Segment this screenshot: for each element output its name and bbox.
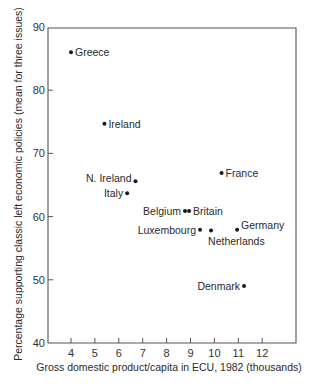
- y-axis-label: Percentage supporting classic left econo…: [12, 7, 24, 361]
- plot-frame: [48, 28, 296, 343]
- x-tick-label: 5: [92, 347, 98, 359]
- point-label: Britain: [193, 205, 223, 217]
- x-tick-label: 6: [116, 347, 122, 359]
- data-point: Germany: [235, 219, 285, 232]
- data-point: Ireland: [102, 118, 140, 130]
- point-marker: [209, 229, 213, 233]
- data-point: Italy: [104, 187, 129, 199]
- x-tick-label: 11: [233, 347, 244, 359]
- point-label: Italy: [104, 187, 124, 199]
- x-tick-label: 9: [187, 347, 193, 359]
- point-label: Luxembourg: [138, 224, 197, 236]
- y-axis-ticks: 405060708090: [33, 21, 53, 349]
- point-marker: [220, 171, 224, 175]
- point-marker: [187, 209, 191, 213]
- point-label: Netherlands: [208, 235, 265, 247]
- x-tick-label: 7: [140, 347, 146, 359]
- data-point: N. Ireland: [86, 172, 138, 184]
- x-axis-label: Gross domestic product/capita in ECU, 19…: [36, 361, 302, 373]
- y-tick-label: 90: [33, 21, 45, 33]
- x-axis-ticks: 456789101112: [68, 338, 268, 359]
- data-point: Britain: [187, 205, 223, 217]
- point-marker: [198, 228, 202, 232]
- data-points: GreeceIrelandN. IrelandItalyFranceBelgiu…: [69, 46, 285, 292]
- x-tick-label: 10: [208, 347, 220, 359]
- y-tick-label: 60: [33, 211, 45, 223]
- scatter-chart: 456789101112 405060708090 GreeceIrelandN…: [0, 0, 311, 391]
- point-label: Germany: [241, 219, 285, 231]
- point-marker: [183, 209, 187, 213]
- x-tick-label: 12: [256, 347, 268, 359]
- y-tick-label: 40: [33, 337, 45, 349]
- point-label: Greece: [75, 46, 110, 58]
- point-label: Belgium: [143, 205, 181, 217]
- point-marker: [235, 228, 239, 232]
- point-marker: [134, 179, 138, 183]
- point-marker: [69, 50, 73, 54]
- y-tick-label: 80: [33, 84, 45, 96]
- y-tick-label: 70: [33, 147, 45, 159]
- point-label: N. Ireland: [86, 172, 132, 184]
- data-point: Luxembourg: [138, 224, 202, 236]
- y-tick-label: 50: [33, 274, 45, 286]
- point-marker: [125, 191, 129, 195]
- point-marker: [242, 284, 246, 288]
- point-label: Denmark: [197, 280, 240, 292]
- point-marker: [102, 122, 106, 126]
- point-label: France: [226, 167, 259, 179]
- plot-border: [48, 28, 296, 343]
- data-point: Greece: [69, 46, 110, 58]
- point-label: Ireland: [108, 118, 140, 130]
- x-tick-label: 8: [164, 347, 170, 359]
- data-point: France: [220, 167, 259, 179]
- data-point: Denmark: [197, 280, 246, 292]
- x-tick-label: 4: [68, 347, 74, 359]
- data-point: Belgium: [143, 205, 187, 217]
